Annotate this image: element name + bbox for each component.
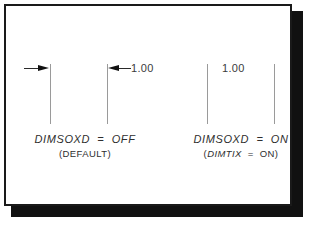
caption-right-line1: DIMSOXD = ON: [176, 133, 290, 145]
caption-right-line2-italic: DIMTIX: [207, 148, 242, 159]
caption-left-line2-prefix: (DEFAULT): [59, 148, 111, 159]
caption-right-line2: (DIMTIX = ON): [176, 148, 290, 159]
extension-line: [274, 64, 275, 124]
arrowhead-icon: [38, 65, 49, 71]
illustration-frame: 1.00 1.00 DIMSOXD = OFF (DEFAULT) DIMSOX…: [4, 4, 292, 206]
caption-left-line2: (DEFAULT): [20, 148, 150, 159]
dimension-value-text: 1.00: [222, 62, 245, 74]
extension-line: [207, 64, 208, 124]
caption-left: DIMSOXD = OFF (DEFAULT): [20, 133, 150, 159]
caption-left-line1: DIMSOXD = OFF: [20, 133, 150, 145]
caption-right-line2-suffix: = ON): [242, 148, 279, 159]
extension-line: [107, 64, 108, 124]
dimension-leader-line: [119, 68, 131, 69]
caption-right: DIMSOXD = ON (DIMTIX = ON): [176, 133, 290, 159]
dimension-leader-line: [24, 68, 38, 69]
arrowhead-icon: [108, 65, 119, 71]
drawing-area: 1.00 1.00 DIMSOXD = OFF (DEFAULT) DIMSOX…: [6, 6, 290, 204]
dimension-value-text: 1.00: [131, 62, 154, 74]
extension-line: [50, 64, 51, 124]
figure-canvas: 1.00 1.00 DIMSOXD = OFF (DEFAULT) DIMSOX…: [0, 0, 312, 234]
